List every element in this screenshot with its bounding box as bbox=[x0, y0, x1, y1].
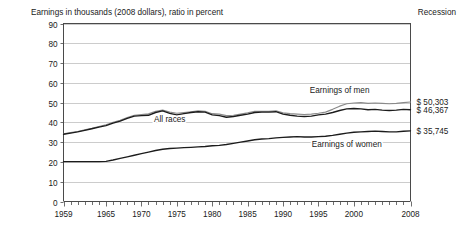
x-tick-label: 1975 bbox=[168, 210, 187, 219]
x-tick-label: 1995 bbox=[309, 210, 328, 219]
series-annotation: Earnings of men bbox=[310, 86, 370, 95]
y-tick-label: 20 bbox=[48, 159, 58, 168]
recession-legend-label: Recession bbox=[418, 8, 457, 17]
y-tick-label: 60 bbox=[48, 80, 58, 89]
x-tick-label: 1985 bbox=[239, 210, 258, 219]
y-tick-label: 90 bbox=[48, 21, 58, 30]
chart-background bbox=[0, 0, 466, 229]
x-tick-label: 1990 bbox=[274, 210, 293, 219]
y-tick-label: 40 bbox=[48, 119, 58, 128]
x-tick-label: 1965 bbox=[97, 210, 116, 219]
end-value-label: $ 35,745 bbox=[417, 127, 449, 136]
end-value-label: $ 46,367 bbox=[417, 106, 449, 115]
x-tick-label: 1980 bbox=[203, 210, 222, 219]
x-tick-label: 1959 bbox=[54, 210, 73, 219]
earnings-line-chart: Earnings in thousands (2008 dollars), ra… bbox=[0, 0, 466, 229]
y-tick-label: 10 bbox=[48, 179, 58, 188]
y-tick-label: 0 bbox=[53, 199, 58, 208]
series-annotation: Earnings of women bbox=[312, 140, 383, 149]
x-tick-label: 2008 bbox=[401, 210, 420, 219]
chart-container: Earnings in thousands (2008 dollars), ra… bbox=[0, 0, 466, 229]
y-tick-label: 30 bbox=[48, 139, 58, 148]
x-tick-label: 1970 bbox=[132, 210, 151, 219]
y-tick-label: 80 bbox=[48, 40, 58, 49]
y-tick-label: 50 bbox=[48, 100, 58, 109]
series-annotation: All races bbox=[154, 115, 185, 124]
y-tick-label: 70 bbox=[48, 60, 58, 69]
x-tick-label: 2000 bbox=[345, 210, 364, 219]
chart-title: Earnings in thousands (2008 dollars), ra… bbox=[31, 8, 224, 17]
